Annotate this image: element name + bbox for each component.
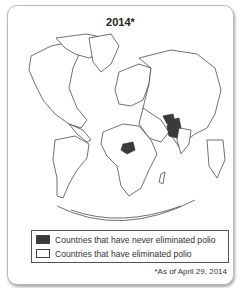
map-card: 2014*: [7, 5, 234, 285]
greenland: [89, 34, 119, 72]
legend-item-never-eliminated: Countries that have never eliminated pol…: [36, 234, 216, 245]
map-title: 2014*: [8, 16, 233, 28]
india: [177, 128, 191, 154]
south-america: [53, 136, 89, 198]
legend-item-eliminated: Countries that have eliminated polio: [36, 248, 192, 259]
footnote: *As of April 29, 2014: [155, 267, 228, 276]
antarctica: [57, 200, 195, 221]
legend: Countries that have never eliminated pol…: [31, 230, 229, 263]
world-map: [11, 28, 230, 233]
legend-swatch-dark: [36, 235, 50, 244]
australia: [207, 140, 225, 178]
madagascar: [159, 172, 165, 184]
antarctica-inner: [71, 206, 181, 218]
legend-label: Countries that have never eliminated pol…: [55, 235, 216, 245]
legend-swatch-white: [36, 249, 50, 258]
legend-label: Countries that have eliminated polio: [55, 249, 192, 259]
